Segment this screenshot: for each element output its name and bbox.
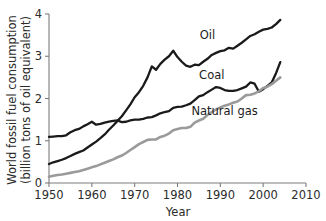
y-tick-label: 1 [35,134,42,148]
y-tick-label: 2 [35,92,42,106]
x-tick-labels: 1950196019701980199020002010 [34,183,320,202]
series-label-oil: Oil [200,28,215,42]
x-tick-label: 2000 [249,188,278,202]
series-label-natural-gas: Natural gas [191,104,257,118]
y-axis-title-line1: World fossil fuel consumption [5,15,19,184]
x-tick-label: 1980 [163,188,192,202]
fossil-fuel-consumption-chart: 01234 1950196019701980199020002010 OilCo… [0,0,326,221]
series-label-coal: Coal [199,68,224,82]
series-line-coal [49,62,280,137]
x-tick-label: 1970 [120,188,149,202]
axes [49,14,306,183]
y-tick-labels: 01234 [35,7,49,190]
data-series [49,20,280,177]
x-axis-title: Year [165,205,191,219]
series-annotations: OilCoalNatural gas [191,28,257,118]
x-tick-label: 1990 [206,188,235,202]
y-axis-title-line2: (billion tons of oil equivalent) [19,16,33,184]
x-tick-label: 1960 [77,188,106,202]
x-tick-label: 1950 [34,188,63,202]
y-tick-label: 3 [35,49,42,63]
y-tick-label: 4 [35,7,42,21]
x-tick-label: 2010 [291,188,320,202]
chart-canvas: 01234 1950196019701980199020002010 OilCo… [0,0,326,221]
axis-spines [49,14,306,183]
series-line-oil [49,20,280,164]
